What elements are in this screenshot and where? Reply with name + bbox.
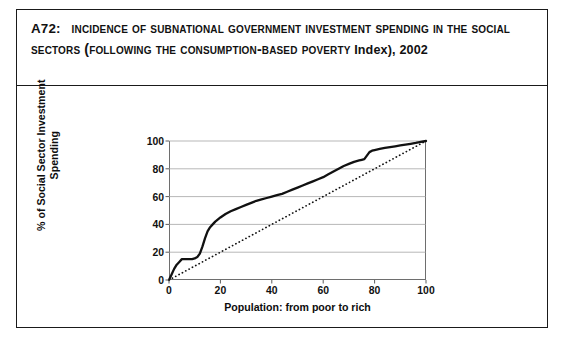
x-axis-tick-label: 40	[266, 285, 278, 296]
figure-label: A72:	[31, 21, 61, 36]
figure-title-block: A72: Incidence of Subnational Government…	[17, 10, 547, 86]
y-axis-tick-label: 80	[152, 163, 164, 174]
plot-area: 020406080100 020406080100	[169, 141, 426, 280]
series-line-of-equality	[169, 141, 426, 280]
gridlines	[169, 141, 426, 252]
x-axis-tick-label: 60	[317, 285, 329, 296]
chart-plot-svg	[169, 141, 426, 280]
y-axis-tick-label: 100	[147, 136, 164, 147]
y-axis-tick-label: 20	[152, 247, 164, 258]
figure-title-line-3: Index), 2002	[354, 43, 428, 57]
concentration-curve-path	[169, 141, 426, 280]
x-axis-tick-label: 80	[369, 285, 381, 296]
x-axis-tick-label: 0	[166, 285, 172, 296]
y-axis-title: % of Social Sector Investment Spending	[35, 70, 61, 240]
figure-frame: A72: Incidence of Subnational Government…	[16, 9, 548, 328]
line-of-equality-path	[169, 141, 426, 280]
series-concentration-curve	[169, 141, 426, 280]
y-axis-tick-label: 40	[152, 219, 164, 230]
y-axis-tick-label: 60	[152, 191, 164, 202]
x-axis-tick-label: 100	[417, 285, 434, 296]
page-title: A72: Incidence of Subnational Government…	[31, 18, 533, 60]
x-axis-title: Population: from poor to rich	[169, 301, 426, 313]
figure-title-line-1: Incidence of Subnational Government Inve…	[72, 20, 444, 36]
x-axis-tick-label: 20	[215, 285, 227, 296]
y-axis-tick-label: 0	[158, 275, 164, 286]
chart-region: % of Social Sector Investment Spending 0…	[17, 86, 547, 327]
